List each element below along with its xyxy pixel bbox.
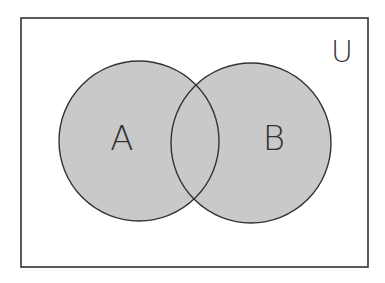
set-b-label: B: [263, 118, 285, 158]
universe-label: U: [331, 34, 353, 69]
venn-diagram: U A B: [0, 0, 385, 283]
set-a-label: A: [110, 118, 133, 158]
